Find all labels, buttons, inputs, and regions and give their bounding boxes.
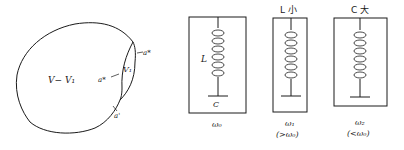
circuit-w1 [273,18,307,112]
boundary-label-1: a* [143,49,151,57]
freq-note-2: (<ω₀) [347,129,370,138]
region-inner-label: V₁ [123,65,132,74]
circuit-w2 [334,18,387,106]
top-label-1: L 小 [280,5,297,15]
arrows [111,52,143,111]
circuit-w0 [189,17,246,113]
diagram-canvas: V− V₁ V₁ a* a* a' L C ω₀ L 小 [0,0,404,150]
freq-label-1: ω₁ [285,119,295,128]
inductor-label-0: L [200,54,207,64]
region-outer-label: V− V₁ [48,75,75,85]
boundary-label-3: a' [114,112,120,120]
capacitor-label-0: C [213,100,219,109]
freq-label-2: ω₂ [355,118,365,127]
boundary-label-2: a* [98,76,106,84]
top-label-2: C 大 [351,4,369,15]
freq-note-1: (>ω₀) [276,130,299,139]
freq-label-0: ω₀ [212,120,223,129]
